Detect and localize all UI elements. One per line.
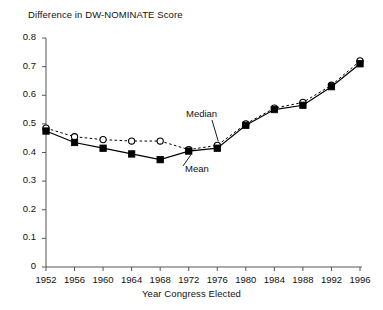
data-point-marker-circle xyxy=(129,138,135,144)
chart-series-median xyxy=(43,58,363,153)
data-point-marker-square xyxy=(328,83,334,89)
x-axis-tick-label: 1996 xyxy=(340,274,380,285)
data-point-marker-square xyxy=(357,61,363,67)
data-point-marker-square xyxy=(100,145,106,151)
y-axis-tick-label: 0 xyxy=(6,260,36,271)
data-point-marker-circle xyxy=(157,138,163,144)
chart-axes xyxy=(42,38,362,271)
y-axis-tick-label: 0.1 xyxy=(6,231,36,242)
data-point-marker-square xyxy=(271,106,277,112)
data-point-marker-square xyxy=(71,139,77,145)
y-axis-tick-label: 0.8 xyxy=(6,31,36,42)
series-annotation-mean: Mean xyxy=(185,163,209,174)
data-point-marker-square xyxy=(128,151,134,157)
y-axis-title: Difference in DW-NOMINATE Score xyxy=(28,9,183,20)
chart-figure: Difference in DW-NOMINATE Score 00.10.20… xyxy=(0,0,383,310)
data-point-marker-square xyxy=(43,128,49,134)
x-axis-title: Year Congress Elected xyxy=(0,288,383,299)
annotation-leader-line xyxy=(212,120,218,141)
y-axis-tick-label: 0.5 xyxy=(6,117,36,128)
y-axis-tick-label: 0.6 xyxy=(6,88,36,99)
data-point-marker-square xyxy=(243,122,249,128)
data-point-marker-square xyxy=(214,145,220,151)
y-axis-tick-label: 0.3 xyxy=(6,174,36,185)
x-axis-ticks xyxy=(46,267,360,271)
data-point-marker-square xyxy=(300,102,306,108)
data-point-marker-circle xyxy=(100,137,106,143)
y-axis-tick-label: 0.7 xyxy=(6,60,36,71)
y-axis-tick-label: 0.2 xyxy=(6,203,36,214)
y-axis-tick-label: 0.4 xyxy=(6,146,36,157)
series-annotation-median: Median xyxy=(186,108,217,119)
chart-plot-area xyxy=(0,0,383,310)
annotation-leader-lines xyxy=(183,120,218,166)
data-point-marker-square xyxy=(157,156,163,162)
data-point-marker-square xyxy=(186,148,192,154)
series-line xyxy=(46,61,360,150)
y-axis-ticks xyxy=(42,38,46,267)
